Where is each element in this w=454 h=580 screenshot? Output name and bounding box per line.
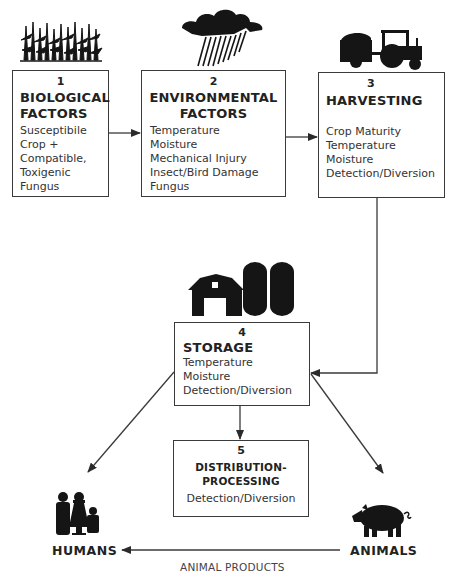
box-item: Mechanical Injury bbox=[150, 152, 285, 166]
box-harvesting: 3 HARVESTING Crop Maturity Temperature M… bbox=[318, 72, 445, 198]
rain-cloud-icon bbox=[176, 6, 268, 68]
box-item: Crop + bbox=[20, 138, 108, 152]
box-item: Moisture bbox=[326, 153, 444, 167]
box-item: Fungus bbox=[20, 180, 108, 194]
box-item: Moisture bbox=[150, 138, 285, 152]
box-item: Temperature bbox=[150, 124, 285, 138]
box-environmental-factors: 2 ENVIRONMENTAL FACTORS Temperature Mois… bbox=[141, 70, 286, 197]
corn-field-icon bbox=[18, 20, 104, 64]
box-item: Moisture bbox=[183, 370, 309, 384]
arrow-4-to-animals bbox=[311, 374, 383, 473]
tractor-wagon-icon bbox=[339, 26, 425, 70]
box-item: Crop Maturity bbox=[326, 125, 444, 139]
box-title: DISTRIBUTION- PROCESSING bbox=[174, 460, 308, 488]
box-item: Susceptibile bbox=[20, 124, 108, 138]
box-number: 5 bbox=[174, 444, 308, 457]
box-item: Detection/Diversion bbox=[326, 167, 444, 181]
box-biological-factors: 1 BIOLOGICAL FACTORS Susceptibile Crop +… bbox=[12, 70, 109, 197]
animal-products-label: ANIMAL PRODUCTS bbox=[180, 561, 285, 573]
box-item: Fungus bbox=[150, 180, 285, 194]
box-item: Temperature bbox=[326, 139, 444, 153]
barn-silo-icon bbox=[186, 260, 296, 318]
box-number: 4 bbox=[175, 326, 309, 339]
animals-label: ANIMALS bbox=[350, 543, 417, 558]
arrow-4-to-humans bbox=[88, 372, 174, 472]
box-storage: 4 STORAGE Temperature Moisture Detection… bbox=[174, 322, 310, 406]
pig-icon bbox=[350, 500, 412, 540]
humans-label: HUMANS bbox=[52, 543, 117, 558]
box-title: BIOLOGICAL FACTORS bbox=[20, 90, 108, 122]
box-title: HARVESTING bbox=[326, 93, 444, 109]
box-item: Compatible, bbox=[20, 152, 108, 166]
family-icon bbox=[52, 491, 104, 537]
box-title: ENVIRONMENTAL FACTORS bbox=[142, 90, 285, 122]
box-number: 3 bbox=[319, 77, 444, 90]
box-number: 2 bbox=[142, 75, 285, 88]
box-item: Detection/Diversion bbox=[183, 384, 309, 398]
box-item: Toxigenic bbox=[20, 166, 108, 180]
box-item: Insect/Bird Damage bbox=[150, 166, 285, 180]
box-distribution-processing: 5 DISTRIBUTION- PROCESSING Detection/Div… bbox=[173, 440, 309, 517]
box-number: 1 bbox=[13, 75, 108, 88]
box-item: Detection/Diversion bbox=[174, 492, 308, 506]
box-item: Temperature bbox=[183, 356, 309, 370]
arrow-3-to-4 bbox=[311, 197, 377, 373]
box-title: STORAGE bbox=[183, 340, 309, 356]
